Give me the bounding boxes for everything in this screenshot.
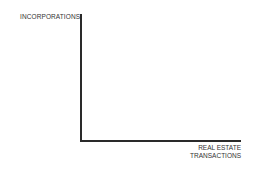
x-axis-label: REAL ESTATE TRANSACTIONS	[190, 144, 241, 160]
x-axis-label-line2: TRANSACTIONS	[190, 152, 241, 160]
chart-area: INCORPORATIONS REAL ESTATE TRANSACTIONS	[0, 0, 254, 171]
y-axis-line	[80, 14, 82, 142]
y-axis-label: INCORPORATIONS	[20, 13, 80, 20]
x-axis-line	[80, 140, 241, 142]
x-axis-label-line1: REAL ESTATE	[190, 144, 241, 152]
